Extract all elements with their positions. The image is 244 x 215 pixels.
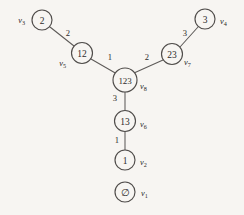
vertex-name-label: v3	[18, 16, 25, 26]
graph-node-label: ∅	[121, 187, 130, 198]
graph-node-label: 3	[203, 15, 208, 25]
graph-node-label: 1	[123, 156, 128, 166]
edge-weight-label: 1	[115, 135, 119, 145]
vertex-names-layer: v3v5v8v7v4v6v2v1	[18, 16, 227, 199]
graph-node-label: 2	[40, 16, 45, 26]
graph-node-label: 12	[77, 49, 87, 59]
graph-edge	[91, 59, 117, 74]
graph-node-label: 23	[167, 50, 177, 60]
graph-node-label: 123	[119, 76, 133, 86]
graph-node-label: 13	[120, 117, 130, 127]
graph-figure: 212331 212123233131∅ v3v5v8v7v4v6v2v1	[0, 0, 244, 215]
graph-canvas: 212331 212123233131∅ v3v5v8v7v4v6v2v1	[0, 0, 244, 215]
edge-weight-label: 2	[66, 28, 70, 38]
graph-edge	[50, 27, 74, 46]
edge-weight-label: 3	[113, 93, 117, 103]
edge-weight-label: 1	[108, 52, 112, 62]
vertex-name-label: v8	[140, 82, 147, 92]
vertex-name-label: v6	[140, 120, 147, 130]
edge-weight-label: 2	[145, 52, 149, 62]
vertex-name-label: v7	[184, 58, 191, 68]
vertex-name-label: v1	[141, 189, 148, 199]
edge-weight-label: 3	[183, 28, 187, 38]
vertex-name-label: v4	[220, 17, 227, 27]
vertex-name-label: v5	[59, 59, 66, 69]
vertex-name-label: v2	[140, 158, 147, 168]
